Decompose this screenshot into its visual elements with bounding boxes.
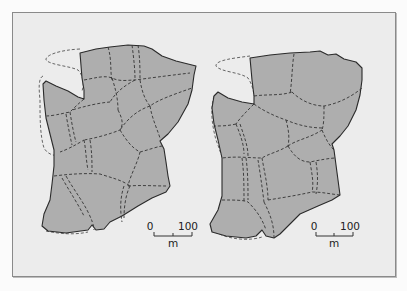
left-scale-line [154,232,192,236]
left-panel: 0 100 m [39,45,198,249]
right-panel: 0 100 m [210,51,362,249]
right-scale-end-label: 100 [340,220,360,232]
right-scale-unit-label: m [329,237,339,249]
diagram-canvas: 0 100 m 0 100 m [0,0,407,291]
left-scale-start-label: 0 [147,220,154,232]
right-region [210,51,362,238]
left-scale-unit-label: m [168,237,178,249]
right-scale-line [316,232,353,236]
right-scale-bar: 0 100 m [311,220,360,249]
left-scale-bar: 0 100 m [147,220,198,249]
left-region [42,45,196,233]
left-scale-end-label: 100 [178,220,198,232]
right-scale-start-label: 0 [311,220,318,232]
